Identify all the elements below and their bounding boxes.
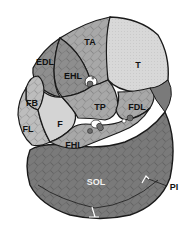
tibia-bone: [104, 17, 168, 92]
label-fdl: FDL: [128, 102, 146, 112]
label-sol: SOL: [87, 177, 106, 187]
label-ta: TA: [84, 37, 96, 47]
label-ehl: EHL: [64, 71, 83, 81]
label-fb: FB: [26, 98, 38, 108]
label-pi: PI: [170, 182, 179, 192]
label-fhl: FHL: [65, 140, 83, 150]
leg-cross-section-diagram: TA EDL EHL T FB TP FDL FL F FHL SOL PI: [0, 0, 189, 233]
label-t: T: [135, 60, 141, 70]
label-f: F: [57, 119, 63, 129]
label-edl: EDL: [36, 57, 55, 67]
label-tp: TP: [94, 102, 106, 112]
label-fl: FL: [23, 124, 34, 134]
